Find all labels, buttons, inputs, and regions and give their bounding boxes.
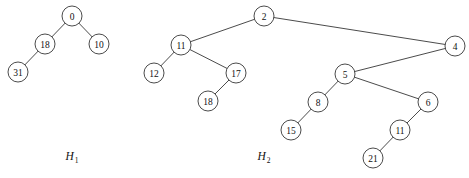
tree-node[interactable]: 12 — [144, 63, 164, 83]
node-key-label: 15 — [286, 126, 296, 136]
node-key-label: 21 — [368, 154, 378, 164]
captions-layer: H1H2 — [64, 150, 270, 165]
node-key-label: 11 — [176, 41, 185, 51]
tree-edge — [190, 19, 254, 41]
node-key-label: 5 — [343, 70, 348, 80]
tree-node[interactable]: 11 — [390, 120, 410, 140]
heap-caption: H2 — [256, 150, 270, 165]
tree-edge — [161, 52, 174, 66]
tree-edge — [190, 50, 227, 69]
tree-diagram-svg: 01810312114121751886151121 H1H2 — [0, 0, 469, 178]
tree-node[interactable]: 4 — [445, 36, 465, 56]
tree-node[interactable]: 0 — [62, 6, 82, 26]
node-key-label: 31 — [13, 68, 23, 78]
tree-edge — [52, 23, 65, 37]
node-key-label: 18 — [40, 40, 50, 50]
tree-node[interactable]: 21 — [363, 148, 383, 168]
heap-caption: H1 — [64, 150, 78, 165]
tree-edge — [79, 23, 92, 37]
tree-edge — [25, 51, 38, 65]
node-key-label: 2 — [262, 12, 267, 22]
binomial-heap-figure: 01810312114121751886151121 H1H2 — [0, 0, 469, 178]
tree-node[interactable]: 2 — [254, 6, 274, 26]
node-key-label: 6 — [426, 98, 431, 108]
tree-edge — [407, 109, 421, 123]
tree-edge — [298, 109, 311, 123]
node-key-label: 17 — [231, 69, 241, 79]
heap-caption-subscript: 1 — [75, 156, 79, 165]
tree-node[interactable]: 15 — [281, 120, 301, 140]
node-key-label: 11 — [395, 126, 404, 136]
tree-node[interactable]: 11 — [171, 35, 191, 55]
tree-node[interactable]: 18 — [35, 34, 55, 54]
tree-node[interactable]: 5 — [335, 64, 355, 84]
node-key-label: 10 — [94, 40, 104, 50]
tree-node[interactable]: 18 — [198, 91, 218, 111]
tree-edge — [274, 18, 445, 45]
edges-layer — [25, 18, 445, 151]
tree-edge — [325, 81, 338, 95]
node-key-label: 0 — [70, 12, 75, 22]
tree-node[interactable]: 8 — [308, 92, 328, 112]
tree-edge — [380, 137, 393, 151]
tree-node[interactable]: 17 — [226, 63, 246, 83]
tree-node[interactable]: 31 — [8, 62, 28, 82]
tree-node[interactable]: 10 — [89, 34, 109, 54]
tree-edge — [354, 77, 418, 99]
node-key-label: 8 — [316, 98, 321, 108]
node-key-label: 12 — [149, 69, 159, 79]
heap-caption-base: H — [64, 150, 74, 162]
tree-node[interactable]: 6 — [418, 92, 438, 112]
tree-edge — [355, 48, 446, 71]
heap-caption-subscript: 2 — [267, 156, 271, 165]
tree-edge — [215, 80, 229, 94]
nodes-layer: 01810312114121751886151121 — [8, 6, 465, 168]
heap-caption-base: H — [256, 150, 266, 162]
node-key-label: 4 — [453, 42, 458, 52]
node-key-label: 18 — [203, 97, 213, 107]
